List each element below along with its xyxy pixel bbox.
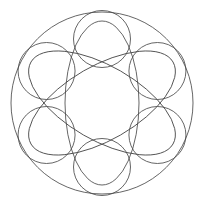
rosette-diagram — [0, 0, 201, 205]
ellipse-1 — [65, 21, 139, 185]
outer-circle — [11, 12, 193, 194]
small-circle-1 — [74, 11, 131, 68]
ellipse-3 — [12, 30, 191, 176]
small-circle-3 — [129, 107, 186, 164]
outer-circle-group — [11, 12, 193, 194]
small-circle-5 — [18, 107, 75, 164]
small-circle-2 — [129, 43, 186, 100]
rosette-svg — [0, 0, 201, 205]
ellipses-group — [12, 21, 191, 185]
small-circle-4 — [74, 139, 131, 196]
ellipse-2 — [12, 30, 191, 176]
small-circle-6 — [18, 43, 75, 100]
